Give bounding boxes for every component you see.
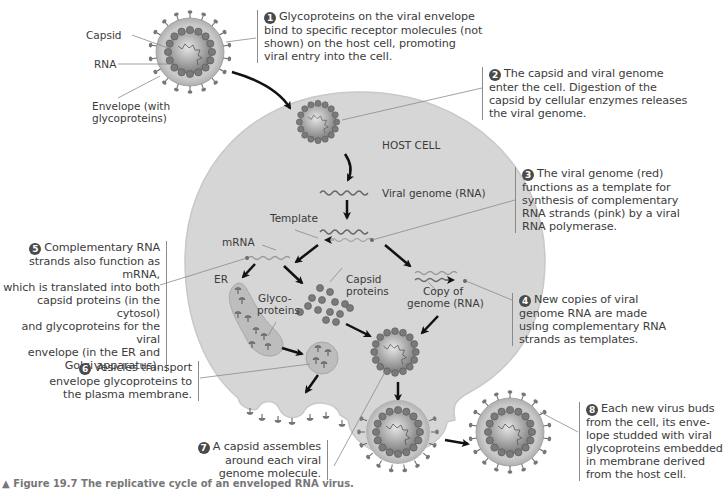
step-8-callout: 8Each new virus buds from the cell, its … (579, 402, 726, 481)
capsid-proteins-label-line1: Capsid (346, 273, 381, 285)
mrna-label: mRNA (222, 236, 255, 248)
step-2-number-icon: 2 (489, 69, 501, 81)
capsid-entering (296, 100, 340, 144)
host-cell-label: HOST CELL (382, 139, 440, 151)
viral-genome-label: Viral genome (RNA) (382, 187, 486, 199)
envelope-label-line1: Envelope (with (92, 100, 170, 112)
glycoproteins-label-line2: proteins (257, 304, 300, 316)
transport-vesicle (306, 342, 338, 374)
copy-genome-label-line1: Copy of (423, 285, 463, 297)
step-1-callout: 1Glycoproteins on the viral envelope bin… (257, 10, 514, 63)
step-2-callout: 2The capsid and viral genome enter the c… (482, 67, 709, 120)
step-4-callout: 4New copies of viral genome RNA are made… (512, 293, 719, 346)
capsid-label: Capsid (86, 29, 121, 41)
step-5-callout: 5Complementary RNA strands also function… (0, 241, 167, 372)
capsid-proteins-label-line2: proteins (346, 285, 389, 297)
envelope-label-line2: glycoproteins) (92, 112, 167, 124)
step-1-number-icon: 1 (264, 12, 276, 24)
glycoproteins-label-line1: Glyco- (258, 292, 291, 304)
rna-label: RNA (94, 58, 116, 70)
step-6-callout: 6Vesicles transport envelope glycoprotei… (40, 361, 199, 401)
copy-genome-label-line2: genome (RNA) (407, 297, 484, 309)
released-virus (468, 390, 551, 474)
assembled-capsid (371, 328, 420, 377)
step-7-number-icon: 7 (198, 442, 210, 454)
er-label: ER (214, 273, 228, 285)
step-5-number-icon: 5 (29, 243, 41, 255)
step-8-number-icon: 8 (586, 404, 598, 416)
step-6-number-icon: 6 (79, 363, 91, 375)
step-3-callout: 3The viral genome (red) functions as a t… (515, 167, 722, 233)
template-label: Template (270, 212, 318, 224)
step-4-number-icon: 4 (519, 295, 531, 307)
step-7-callout: 7A capsid assembles around each viral ge… (190, 440, 328, 480)
step-3-number-icon: 3 (522, 169, 534, 181)
figure-caption: ▲ Figure 19.7 The replicative cycle of a… (2, 478, 354, 489)
free-virus (148, 10, 231, 94)
